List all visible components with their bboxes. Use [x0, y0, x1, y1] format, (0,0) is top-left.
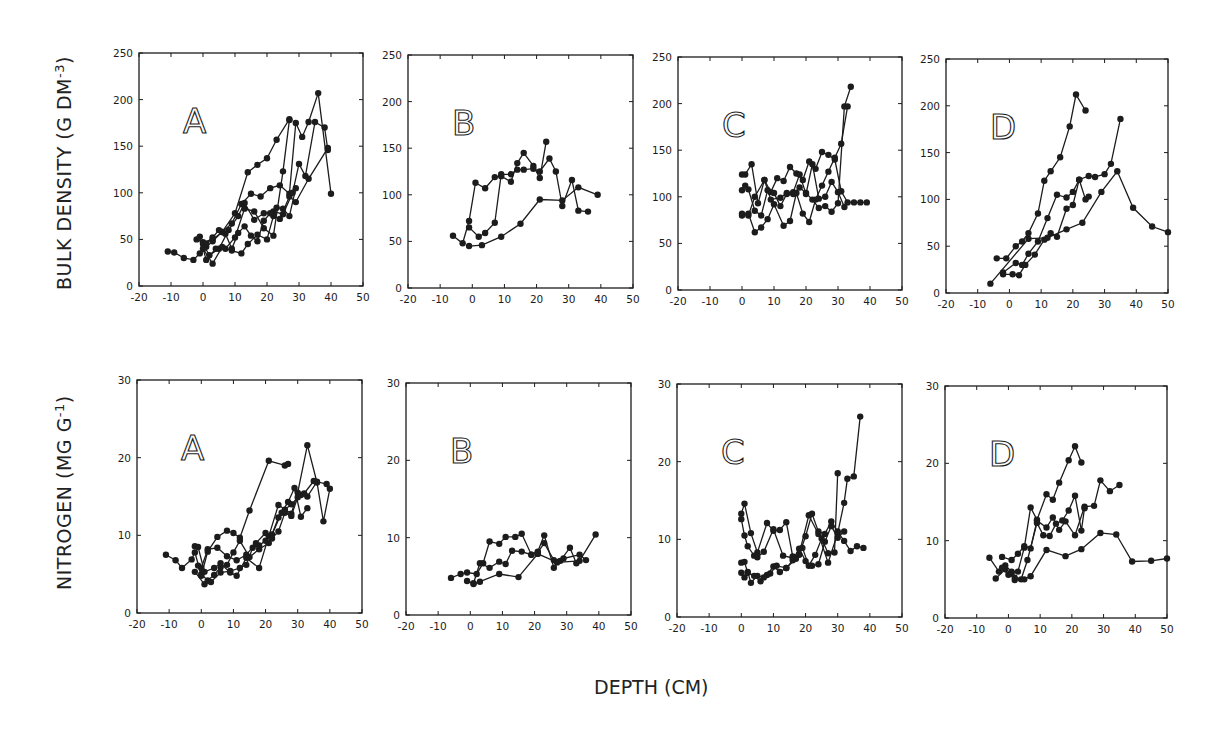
data-point-marker	[241, 205, 247, 211]
y-tick-label: 0	[933, 287, 940, 299]
data-point-marker	[802, 558, 808, 564]
data-point-marker	[251, 217, 257, 223]
y-tick-label: 0	[393, 609, 400, 621]
data-point-marker	[233, 557, 239, 563]
data-point-marker	[275, 528, 281, 534]
data-point-marker	[293, 185, 299, 191]
data-point-marker	[1046, 533, 1052, 539]
data-point-marker	[838, 140, 844, 146]
data-point-marker	[211, 565, 217, 571]
data-point-marker	[280, 205, 286, 211]
data-point-marker	[482, 185, 488, 191]
data-point-marker	[466, 243, 472, 249]
data-point-marker	[537, 196, 543, 202]
series-line	[996, 496, 1085, 580]
data-point-marker	[229, 246, 235, 252]
y-tick-label: 0	[124, 607, 131, 619]
data-point-marker	[819, 182, 825, 188]
y-tick-label: 200	[113, 94, 133, 106]
data-point-marker	[739, 210, 745, 216]
data-point-marker	[256, 565, 262, 571]
data-point-marker	[828, 523, 834, 529]
x-tick-label: -10	[161, 618, 178, 630]
ylabel-nitrogen-text: NITROGEN (MG G	[53, 417, 75, 590]
x-tick-label: -20	[130, 291, 147, 303]
y-tick-label: 10	[387, 532, 400, 544]
data-point-marker	[764, 216, 770, 222]
ylabel-bulk-density-text: BULK DENSITY (G DM	[53, 78, 75, 290]
data-point-marker	[502, 561, 508, 567]
data-point-marker	[816, 195, 822, 201]
x-tick-label: 10	[1033, 623, 1046, 635]
data-point-marker	[754, 554, 760, 560]
x-tick-label: 10	[767, 622, 780, 634]
y-tick-label: 100	[382, 189, 402, 201]
data-point-marker	[828, 209, 834, 215]
panel-letter: A	[181, 428, 204, 468]
data-point-marker	[286, 213, 292, 219]
x-tick-label: 40	[324, 291, 337, 303]
data-point-marker	[1043, 491, 1049, 497]
data-point-marker	[1065, 457, 1071, 463]
data-point-marker	[761, 549, 767, 555]
data-point-marker	[245, 241, 251, 247]
data-point-marker	[509, 548, 515, 554]
y-tick-label: 150	[652, 144, 672, 156]
data-point-marker	[752, 194, 758, 200]
data-point-marker	[286, 193, 292, 199]
data-point-marker	[237, 538, 243, 544]
data-point-marker	[742, 171, 748, 177]
axes-frame	[408, 55, 633, 288]
data-point-marker	[304, 505, 310, 511]
data-point-marker	[1070, 202, 1076, 208]
data-point-marker	[761, 574, 767, 580]
data-point-marker	[253, 540, 259, 546]
data-point-marker	[825, 559, 831, 565]
data-point-marker	[496, 571, 502, 577]
data-point-marker	[1116, 482, 1122, 488]
data-point-marker	[1009, 271, 1015, 277]
data-point-marker	[761, 177, 767, 183]
data-point-marker	[295, 494, 301, 500]
data-point-marker	[285, 461, 291, 467]
y-tick-label: 20	[118, 452, 131, 464]
data-point-marker	[993, 575, 999, 581]
x-tick-label: 20	[528, 620, 541, 632]
data-point-marker	[770, 526, 776, 532]
data-point-marker	[1072, 493, 1078, 499]
panel-nitrogen-a: -20-10010203040500102030A	[118, 374, 369, 630]
data-point-marker	[457, 571, 463, 577]
x-tick-label: -10	[701, 295, 718, 307]
data-point-marker	[767, 570, 773, 576]
data-point-marker	[575, 207, 581, 213]
data-point-marker	[172, 557, 178, 563]
data-point-marker	[502, 534, 508, 540]
data-point-marker	[847, 548, 853, 554]
x-tick-label: 20	[1066, 298, 1079, 310]
data-point-marker	[1066, 123, 1072, 129]
ylabel-bulk-density: BULK DENSITY (G DM-3)	[52, 56, 75, 290]
data-point-marker	[819, 149, 825, 155]
panel-letter: B	[450, 431, 473, 471]
x-tick-label: 40	[863, 295, 876, 307]
data-point-marker	[476, 234, 482, 240]
y-tick-label: 20	[926, 457, 939, 469]
data-point-marker	[496, 541, 502, 547]
data-point-marker	[1044, 215, 1050, 221]
data-point-marker	[320, 518, 326, 524]
data-point-marker	[165, 248, 171, 254]
x-tick-label: -10	[968, 623, 985, 635]
data-point-marker	[841, 538, 847, 544]
x-tick-label: 10	[1034, 298, 1047, 310]
data-point-marker	[328, 191, 334, 197]
data-point-marker	[1149, 223, 1155, 229]
data-point-marker	[560, 555, 566, 561]
x-tick-label: 10	[767, 295, 780, 307]
data-point-marker	[528, 551, 534, 557]
data-point-marker	[822, 194, 828, 200]
data-point-marker	[1086, 173, 1092, 179]
x-tick-label: 10	[227, 618, 240, 630]
y-tick-label: 150	[113, 140, 133, 152]
ylabel-nitrogen-close: )	[53, 395, 75, 403]
data-point-marker	[448, 575, 454, 581]
